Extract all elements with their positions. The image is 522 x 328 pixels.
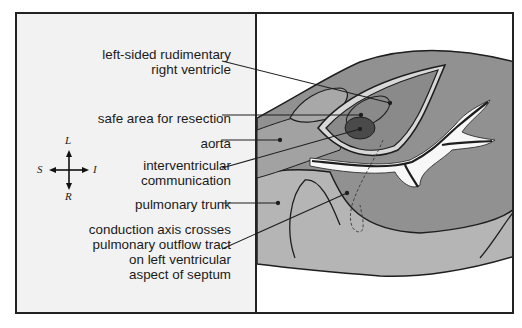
heart-illustration (0, 0, 522, 328)
